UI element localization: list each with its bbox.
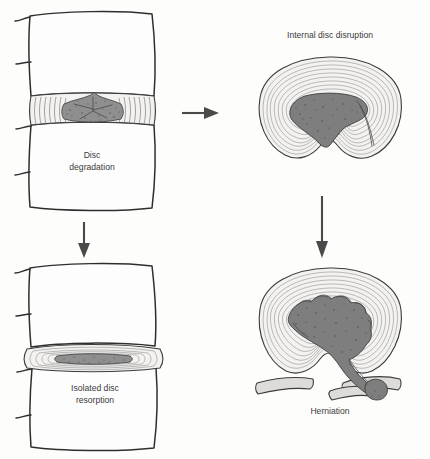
panel-isolated-disc-resorption: Isolated disc resorption bbox=[15, 264, 163, 451]
panel-label-disc-degradation-line1: Disc bbox=[84, 150, 101, 160]
endplate-hook-upper-top bbox=[15, 17, 30, 21]
endplate-hook-lower-top-resorption bbox=[17, 369, 32, 372]
endplate-hook-lower-top bbox=[16, 126, 31, 129]
disc-degeneration-figure: Disc degradation Internal disc disruptio… bbox=[0, 0, 430, 459]
extruded-fragment bbox=[365, 379, 387, 400]
panel-label-internal-disc-disruption: Internal disc disruption bbox=[287, 30, 373, 40]
nerve-root-left bbox=[256, 378, 314, 394]
arrow-disruption-to-herniation bbox=[316, 196, 328, 258]
nucleus-pulposus-resorbed bbox=[55, 354, 133, 365]
arrow-degradation-to-disruption bbox=[182, 107, 219, 119]
panel-herniation: Herniation bbox=[256, 268, 402, 416]
panel-label-isolated-disc-resorption-line1: Isolated disc bbox=[71, 383, 119, 393]
vertebral-body-upper bbox=[29, 12, 155, 96]
vertebral-body-upper-resorption bbox=[29, 264, 156, 347]
panel-label-herniation: Herniation bbox=[310, 406, 349, 416]
panel-label-disc-degradation-line2: degradation bbox=[69, 162, 115, 172]
vertebral-body-lower-resorption bbox=[30, 365, 157, 451]
panel-internal-disc-disruption: Internal disc disruption bbox=[259, 30, 401, 158]
arrow-degradation-to-resorption bbox=[78, 222, 90, 258]
panel-disc-degradation: Disc degradation bbox=[15, 12, 156, 211]
panel-label-isolated-disc-resorption-line2: resorption bbox=[76, 395, 114, 405]
endplate-hook-lower-bottom-resorption bbox=[16, 415, 31, 418]
endplate-hook-lower-bottom bbox=[15, 172, 30, 175]
endplate-hook-upper-top-resorption bbox=[15, 269, 30, 273]
